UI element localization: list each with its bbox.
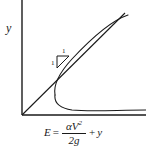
equation-fraction: αV2 2g — [62, 120, 86, 146]
equation-plus: + — [87, 127, 97, 138]
equation: E = αV2 2g + y — [44, 120, 102, 146]
specific-energy-upper-branch — [55, 15, 128, 95]
equation-lhs: E — [44, 127, 51, 138]
slope-triangle-hypotenuse — [57, 56, 69, 68]
fraction-numerator: αV2 — [64, 120, 84, 133]
asymptote-line — [22, 13, 125, 115]
equation-equals: = — [51, 127, 61, 138]
specific-energy-figure: y 1 1 E = αV2 2g + y — [0, 0, 146, 160]
slope-triangle-run-label: 1 — [51, 60, 55, 67]
slope-triangle — [57, 56, 69, 68]
y-axis-label: y — [6, 22, 11, 34]
equation-y-term: y — [97, 127, 102, 138]
velocity-exponent: 2 — [78, 119, 82, 127]
slope-triangle-rise-label: 1 — [62, 48, 66, 55]
fraction-denominator: 2g — [66, 134, 81, 146]
caption-equation: E = αV2 2g + y — [0, 120, 146, 146]
specific-energy-lower-branch — [55, 95, 146, 111]
